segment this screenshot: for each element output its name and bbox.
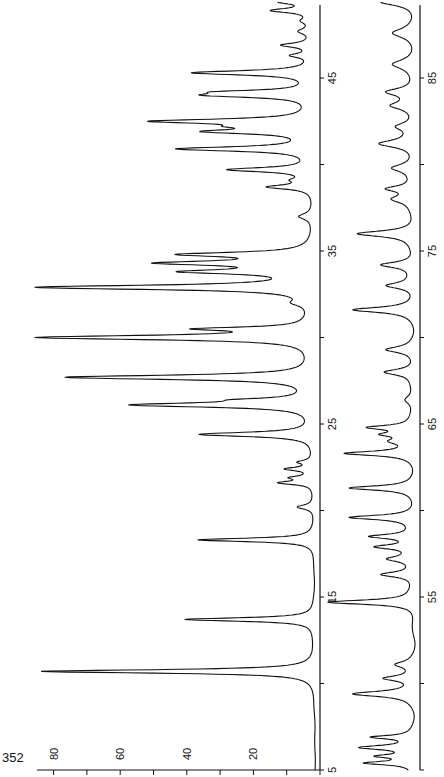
two-theta-tick-label: 25 (326, 418, 338, 430)
two-theta-tick-label: 5 (326, 767, 338, 773)
intensity-tick-label: 60 (114, 748, 126, 760)
two-theta-tick-label: 75 (426, 245, 438, 257)
intensity-tick-label: 40 (181, 748, 193, 760)
xrd-pattern-chart: 20406080 515253545 55657585 (0, 0, 444, 777)
upper-range-panel: 515253545 (35, 2, 338, 773)
intensity-tick-label: 80 (48, 748, 60, 760)
two-theta-tick-label: 35 (326, 245, 338, 257)
two-theta-tick-label: 65 (426, 418, 438, 430)
lower-range-panel: 55657585 (328, 2, 438, 770)
two-theta-tick-label: 55 (426, 591, 438, 603)
diffraction-trace (328, 2, 415, 770)
intensity-axis: 20406080 (37, 748, 320, 775)
diffraction-trace (35, 2, 315, 770)
intensity-tick-label: 20 (247, 748, 259, 760)
two-theta-tick-label: 85 (426, 72, 438, 84)
two-theta-tick-label: 45 (326, 72, 338, 84)
